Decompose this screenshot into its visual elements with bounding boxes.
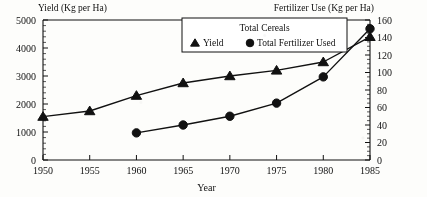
data-point-fertilizer: [319, 73, 327, 81]
x-axis-tick-label: 1975: [267, 165, 287, 176]
data-point-fertilizer: [132, 129, 140, 137]
y-axis-left-tick-label: 3000: [16, 71, 36, 82]
x-axis-tick-label: 1980: [313, 165, 333, 176]
x-axis-tick-label: 1985: [360, 165, 380, 176]
legend-label-fertilizer: Total Fertilizer Used: [257, 38, 336, 48]
chart-figure: 0100020003000400050000204060801001201401…: [0, 0, 427, 197]
x-axis-tick-label: 1965: [173, 165, 193, 176]
y-axis-left-tick-label: 4000: [16, 43, 36, 54]
legend-circle-marker-icon: [246, 39, 254, 47]
chart-canvas: 0100020003000400050000204060801001201401…: [0, 0, 427, 197]
data-point-fertilizer: [366, 25, 374, 33]
y-axis-left-tick-label: 0: [31, 155, 36, 166]
y-axis-right-tick-label: 100: [377, 67, 392, 78]
x-axis-title: Year: [197, 182, 216, 193]
data-point-yield: [318, 57, 328, 66]
y-axis-right-tick-label: 120: [377, 50, 392, 61]
x-axis-tick-label: 1955: [80, 165, 100, 176]
y-axis-right-tick-label: 80: [377, 85, 387, 96]
y-axis-left-title: Yield (Kg per Ha): [38, 3, 107, 14]
x-axis-tick-label: 1960: [126, 165, 146, 176]
data-point-fertilizer: [226, 112, 234, 120]
x-axis-tick-label: 1950: [33, 165, 53, 176]
y-axis-right-tick-label: 60: [377, 102, 387, 113]
x-axis-tick-label: 1970: [220, 165, 240, 176]
y-axis-right-tick-label: 40: [377, 120, 387, 131]
y-axis-right-tick-label: 160: [377, 15, 392, 26]
legend-label-yield: Yield: [203, 38, 224, 48]
data-point-fertilizer: [272, 99, 280, 107]
y-axis-right-tick-label: 20: [377, 137, 387, 148]
legend-title: Total Cereals: [239, 23, 290, 33]
y-axis-right-title: Fertilizer Use (Kg per Ha): [274, 3, 374, 14]
y-axis-left-tick-label: 1000: [16, 127, 36, 138]
y-axis-right-tick-label: 0: [377, 155, 382, 166]
data-point-fertilizer: [179, 121, 187, 129]
y-axis-right-tick-label: 140: [377, 32, 392, 43]
y-axis-left-tick-label: 2000: [16, 99, 36, 110]
y-axis-left-tick-label: 5000: [16, 15, 36, 26]
